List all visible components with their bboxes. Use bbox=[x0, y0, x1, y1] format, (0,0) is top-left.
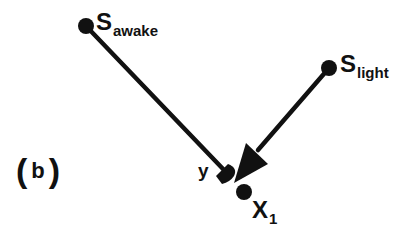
arrowhead-triangle-icon bbox=[234, 143, 268, 183]
node-s-light bbox=[321, 60, 337, 76]
node-s-awake bbox=[78, 18, 94, 34]
node-x1 bbox=[236, 184, 252, 200]
label-y: y bbox=[198, 160, 209, 182]
label-x1: X1 bbox=[252, 198, 277, 222]
edge-light-to-y bbox=[258, 68, 329, 150]
diagram-canvas bbox=[0, 0, 411, 234]
panel-label: (b) bbox=[16, 148, 61, 187]
label-x1-main: X bbox=[252, 196, 268, 223]
panel-label-open: ( bbox=[16, 151, 28, 189]
label-s-light-sub: light bbox=[357, 64, 389, 81]
label-s-light: Slight bbox=[340, 52, 389, 76]
label-s-light-main: S bbox=[340, 50, 356, 77]
label-x1-sub: 1 bbox=[269, 210, 277, 227]
label-s-awake-sub: awake bbox=[113, 22, 158, 39]
panel-label-close: ) bbox=[49, 151, 61, 189]
panel-label-letter: b bbox=[28, 158, 48, 183]
label-s-awake-main: S bbox=[96, 8, 112, 35]
label-s-awake: Sawake bbox=[96, 10, 158, 34]
edge-awake-to-y bbox=[86, 26, 224, 170]
